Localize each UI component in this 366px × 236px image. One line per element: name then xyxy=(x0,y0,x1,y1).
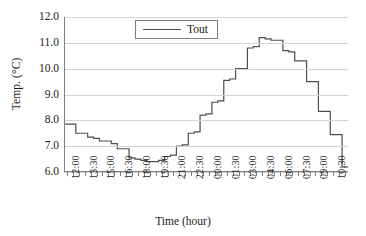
gridline xyxy=(64,146,348,147)
y-axis-tick-label: 9.0 xyxy=(15,89,59,101)
gridline xyxy=(64,17,348,18)
plot-area xyxy=(64,17,348,172)
x-axis-tick-mark xyxy=(298,172,299,176)
x-axis-tick-mark xyxy=(173,172,174,176)
x-axis-tick-label: 00:00 xyxy=(213,155,223,179)
x-axis-tick-label: 22:30 xyxy=(195,155,205,179)
x-axis-tick-mark xyxy=(244,172,245,176)
x-axis-tick-mark xyxy=(262,172,263,176)
y-axis-tick-label: 10.0 xyxy=(15,63,59,75)
x-axis-tick-mark xyxy=(280,172,281,176)
x-axis-tick-label: 21:00 xyxy=(177,155,187,179)
x-axis-tick-label: 10:30 xyxy=(337,155,347,179)
x-axis-tick-mark xyxy=(315,172,316,176)
x-axis-tick-mark xyxy=(227,172,228,176)
y-axis-tick-label: 7.0 xyxy=(15,140,59,152)
y-axis-tick-label: 8.0 xyxy=(15,114,59,126)
x-axis-tick-label: 13:30 xyxy=(89,155,99,179)
legend-line-swatch-tout xyxy=(143,29,181,30)
x-axis-tick-mark xyxy=(156,172,157,176)
x-axis-tick-mark xyxy=(138,172,139,176)
x-axis-tick-mark xyxy=(102,172,103,176)
x-axis-tick-label: 01:30 xyxy=(231,155,241,179)
x-axis-tick-label: 07:30 xyxy=(302,155,312,179)
x-axis-tick-label: 04:30 xyxy=(266,155,276,179)
y-axis-tick-label: 12.0 xyxy=(15,11,59,23)
gridline xyxy=(64,43,348,44)
x-axis-tick-label: 12:00 xyxy=(71,155,81,179)
x-axis-tick-mark xyxy=(209,172,210,176)
temperature-line-chart: Temp. (°C) 12.011.010.09.08.07.06.0 12:0… xyxy=(0,0,366,236)
gridline xyxy=(64,120,348,121)
x-axis-tick-mark xyxy=(85,172,86,176)
x-axis-tick-mark xyxy=(191,172,192,176)
x-axis-tick-label: 18:00 xyxy=(142,155,152,179)
x-axis-tick-mark xyxy=(120,172,121,176)
x-axis-tick-mark xyxy=(67,172,68,176)
legend: Tout xyxy=(135,20,218,39)
legend-label-tout: Tout xyxy=(187,23,208,36)
x-axis-title: Time (hour) xyxy=(0,215,366,227)
x-axis-tick-mark xyxy=(333,172,334,176)
x-axis-tick-label: 19:30 xyxy=(160,155,170,179)
y-axis-tick-label: 11.0 xyxy=(15,37,59,49)
y-axis-tick-label: 6.0 xyxy=(15,166,59,178)
x-axis-tick-label: 16:30 xyxy=(124,155,134,179)
gridline xyxy=(64,95,348,96)
x-axis-tick-label: 06:00 xyxy=(284,155,294,179)
x-axis-tick-label: 09:00 xyxy=(319,155,329,179)
gridline xyxy=(64,69,348,70)
x-axis-tick-label: 15:00 xyxy=(106,155,116,179)
x-axis-tick-label: 03:00 xyxy=(248,155,258,179)
y-axis-line xyxy=(64,17,65,172)
